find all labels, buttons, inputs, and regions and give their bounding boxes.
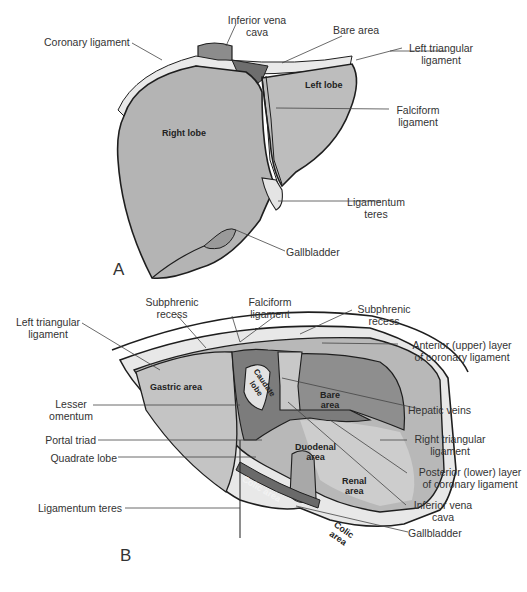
label-falciform-a: Falciform ligament: [388, 104, 448, 128]
label-falciform-b: Falciform ligament: [240, 296, 300, 320]
label-lig-teres-a: Ligamentum teres: [340, 196, 412, 220]
label-lig-teres-b: Ligamentum teres: [38, 502, 122, 514]
label-quadrate-lobe: Quadrate lobe: [30, 452, 117, 464]
inner-right-lobe: Right lobe: [162, 128, 206, 138]
inner-duodenal-area: Duodenal area: [295, 442, 336, 462]
label-portal-triad: Portal triad: [30, 434, 96, 446]
label-posterior-layer: Posterior (lower) layer of coronary liga…: [408, 466, 527, 490]
label-subphrenic-left: Subphrenic recess: [140, 296, 204, 320]
label-anterior-layer: Anterior (upper) layer of coronary ligam…: [400, 339, 524, 363]
label-gallbladder-b: Gallbladder: [408, 527, 462, 539]
inner-renal-area: Renal area: [342, 476, 367, 496]
label-gallbladder-a: Gallbladder: [286, 246, 340, 258]
inner-bare-area: Bare area: [320, 390, 340, 410]
inner-gastric-area: Gastric area: [150, 382, 202, 392]
gastric-area-shape: [136, 352, 237, 492]
label-coronary-ligament: Coronary ligament: [44, 36, 130, 48]
panel-letter-a: A: [113, 260, 124, 280]
right-lobe-shape: [118, 66, 276, 278]
label-lesser-omentum: Lesser omentum: [48, 398, 94, 422]
label-subphrenic-right: Subphrenic recess: [352, 303, 416, 327]
label-right-triangular: Right triangular ligament: [408, 433, 492, 457]
label-left-triangular-b: Left triangular ligament: [12, 316, 84, 340]
label-hepatic-veins: Hepatic veins: [408, 404, 471, 416]
label-bare-area-a: Bare area: [333, 24, 379, 36]
label-ivc-b: Inferior vena cava: [406, 499, 480, 523]
label-left-triangular-a: Left triangular ligament: [402, 42, 480, 66]
inner-left-lobe: Left lobe: [305, 80, 343, 90]
ivc-window: [278, 352, 302, 410]
label-ivc-a: Inferior vena cava: [220, 14, 294, 38]
figure-a-liver-anterior: [118, 43, 357, 278]
panel-letter-b: B: [120, 546, 131, 566]
